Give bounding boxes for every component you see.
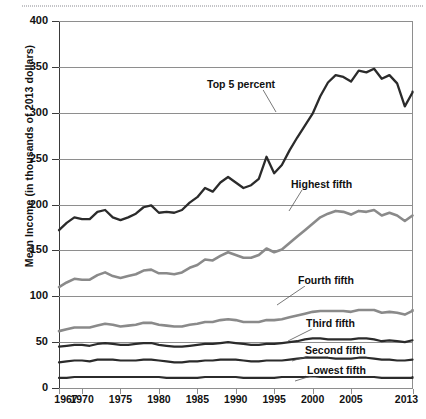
y-tick-mark-50	[52, 342, 59, 343]
y-tick-mark-250	[52, 159, 59, 160]
x-tick-label-1975: 1975	[109, 393, 132, 405]
y-tick-mark-200	[52, 205, 59, 206]
gridline-350	[59, 67, 413, 68]
annotation-highest-fifth: Highest fifth	[290, 178, 353, 190]
annotation-second-fifth: Second fifth	[304, 344, 367, 356]
x-tick-label-1985: 1985	[186, 393, 209, 405]
gridline-250	[59, 159, 413, 160]
y-tick-label-50: 50	[14, 335, 48, 347]
y-tick-mark-400	[52, 21, 59, 22]
y-tick-label-200: 200	[14, 198, 48, 210]
gridline-400	[59, 21, 413, 22]
x-tick-label-1980: 1980	[147, 393, 170, 405]
x-tick-label-2000: 2000	[301, 393, 324, 405]
series-line-lowest-fifth	[59, 376, 413, 378]
y-tick-mark-100	[52, 296, 59, 297]
series-line-highest-fifth	[59, 210, 413, 287]
gridline-200	[59, 205, 413, 206]
series-line-second-fifth	[59, 358, 413, 363]
gridline-300	[59, 113, 413, 114]
y-tick-label-250: 250	[14, 152, 48, 164]
top-dotted-rule	[22, 5, 424, 7]
gridline-100	[59, 296, 413, 297]
annotation-leader-line	[262, 88, 276, 112]
y-tick-mark-150	[52, 250, 59, 251]
y-tick-label-400: 400	[14, 14, 48, 26]
gridline-150	[59, 250, 413, 251]
x-tick-label-2005: 2005	[339, 393, 362, 405]
y-tick-label-350: 350	[14, 60, 48, 72]
x-tick-label-1990: 1990	[224, 393, 247, 405]
y-tick-label-150: 150	[14, 243, 48, 255]
series-line-top-5-percent	[59, 69, 413, 230]
annotation-leader-line	[289, 190, 302, 211]
x-tick-label-1970: 1970	[70, 393, 93, 405]
annotation-third-fifth: Third fifth	[305, 317, 356, 329]
x-tick-label-2013: 2013	[395, 393, 418, 405]
y-tick-mark-350	[52, 67, 59, 68]
annotation-fourth-fifth: Fourth fifth	[297, 274, 355, 286]
series-lines-group	[0, 0, 426, 419]
series-line-fourth-fifth	[59, 310, 413, 331]
y-tick-label-0: 0	[14, 381, 48, 393]
annotation-top-5-percent: Top 5 percent	[206, 78, 276, 90]
income-quintile-line-chart: Mean Income (in thousands of 2013 dollar…	[0, 0, 426, 419]
y-tick-mark-300	[52, 113, 59, 114]
annotation-lowest-fifth: Lowest fifth	[306, 364, 367, 376]
y-tick-label-100: 100	[14, 289, 48, 301]
x-tick-label-1995: 1995	[262, 393, 285, 405]
annotation-leader-line	[288, 329, 312, 341]
y-tick-mark-0	[52, 388, 59, 389]
gridline-50	[59, 342, 413, 343]
y-tick-label-300: 300	[14, 106, 48, 118]
